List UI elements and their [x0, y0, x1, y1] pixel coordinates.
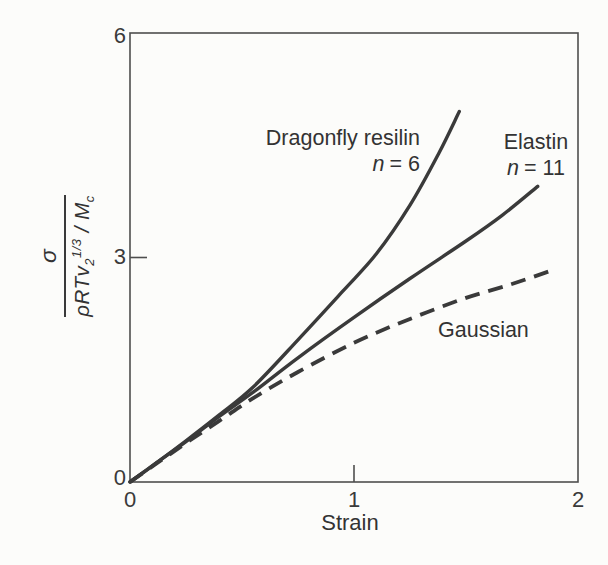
den-subscript-c: c: [82, 195, 97, 202]
den-superscript-1-3: 1/3: [69, 238, 84, 258]
figure-canvas: 6 3 0 0 1 2 Dragonfly resilin n= 6 Elast…: [0, 0, 608, 565]
elastin-annotation: Elastin n= 11: [490, 129, 582, 181]
y-axis-fraction: σ ρRTv21/3 / Mc: [35, 195, 97, 316]
y-axis-numerator-sigma: σ: [35, 195, 64, 316]
y-axis-label: σ ρRTv21/3 / Mc: [0, 161, 161, 351]
plot-frame: [130, 33, 578, 482]
x-axis-label: Strain: [290, 510, 410, 536]
den-subscript-2: 2: [82, 258, 97, 266]
den-slash: /: [70, 220, 93, 239]
resilin-n-value: = 6: [390, 152, 421, 176]
y-tick-label-6: 6: [76, 24, 126, 48]
dragonfly-resilin-annotation: Dragonfly resilin n= 6: [228, 125, 420, 177]
gaussian-curve: [130, 271, 550, 482]
y-axis-denominator: ρRTv21/3 / Mc: [64, 195, 97, 316]
dragonfly-resilin-name: Dragonfly resilin: [266, 126, 420, 150]
x-tick-label-0: 0: [112, 488, 148, 512]
den-M: M: [70, 202, 93, 220]
den-base: ρRTv: [70, 266, 93, 317]
elastin-n-variable: n: [507, 156, 519, 180]
gaussian-annotation: Gaussian: [438, 317, 548, 343]
y-tick-label-0: 0: [76, 466, 126, 490]
resilin-n-variable: n: [373, 152, 385, 176]
x-tick-label-1: 1: [336, 488, 372, 512]
elastin-name: Elastin: [504, 130, 569, 154]
elastin-n-value: = 11: [524, 156, 565, 180]
tick-marks: [130, 258, 354, 483]
x-tick-label-2: 2: [560, 488, 596, 512]
